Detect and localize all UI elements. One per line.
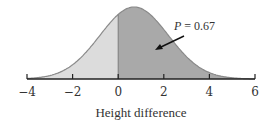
- area-below-zero: [27, 14, 118, 79]
- x-tick-label: 0: [114, 85, 122, 99]
- x-axis-title: Height difference: [95, 105, 186, 120]
- x-tick-label: −2: [64, 85, 82, 99]
- annotation-label: P = 0.67: [173, 19, 215, 33]
- chart-canvas: −4−20246 P = 0.67 Height difference: [0, 0, 271, 125]
- x-tick-label: 6: [251, 85, 259, 99]
- area-above-zero: [118, 7, 255, 79]
- x-tick-label: 2: [160, 85, 168, 99]
- x-tick-label: 4: [206, 85, 214, 99]
- x-tick-label: −4: [18, 85, 36, 99]
